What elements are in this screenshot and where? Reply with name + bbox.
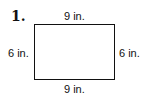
- problem-number: 1.: [11, 9, 26, 23]
- rectangle-shape: [34, 24, 115, 80]
- right-side-label: 6 in.: [119, 48, 140, 59]
- left-side-label: 6 in.: [8, 48, 29, 59]
- bottom-side-label: 9 in.: [64, 84, 85, 95]
- top-side-label: 9 in.: [64, 11, 85, 22]
